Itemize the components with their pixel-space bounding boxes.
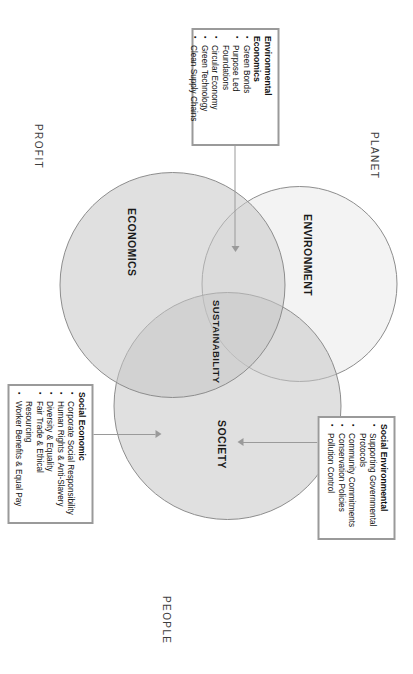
callout-title-social-economic: Social Economic bbox=[75, 392, 86, 516]
callout-item: Purpose Led Foundations bbox=[218, 36, 239, 138]
outer-word-profit: PROFIT bbox=[32, 124, 43, 169]
callout-item: Conservation Policies bbox=[334, 424, 345, 532]
connector-line-environmental-economics bbox=[234, 146, 235, 248]
callout-item: Green Bonds bbox=[239, 36, 250, 138]
callout-title-environmental-economics: Environmental Economics bbox=[251, 36, 272, 138]
callout-item: Supporting Governmental Protocols bbox=[355, 424, 376, 532]
callout-item: Diversity & Equality bbox=[43, 392, 54, 516]
venn-label-environment: ENVIRONMENT bbox=[301, 214, 313, 296]
callout-list-social-environmental: Supporting Governmental Protocols Commun… bbox=[324, 424, 377, 532]
callout-list-environmental-economics: Green Bonds Purpose Led Foundations Circ… bbox=[187, 36, 250, 138]
callout-item: Circular Economy bbox=[208, 36, 219, 138]
callout-item: Worker Benefits & Equal Pay bbox=[11, 392, 22, 516]
callout-box-environmental-economics[interactable]: Environmental Economics Green Bonds Purp… bbox=[191, 28, 279, 146]
callout-item: Green Technology bbox=[197, 36, 208, 138]
arrowhead-up-icon bbox=[155, 430, 161, 438]
connector-line-social-economic bbox=[91, 434, 155, 435]
venn-label-society: SOCIETY bbox=[215, 420, 227, 469]
callout-box-social-economic[interactable]: Social Economic Corporate Social Respons… bbox=[7, 384, 93, 524]
callout-item: Corporate Social Responsibility bbox=[64, 392, 75, 516]
arrowhead-down-icon bbox=[237, 438, 243, 446]
venn-diagram: ENVIRONMENT SOCIETY ECONOMICS SUSTAINABI… bbox=[0, 0, 413, 674]
venn-circle-economics bbox=[59, 172, 285, 398]
venn-label-economics: ECONOMICS bbox=[125, 208, 137, 276]
callout-item: Pollution Control bbox=[324, 424, 335, 532]
callout-box-social-environmental[interactable]: Social Environmental Supporting Governme… bbox=[317, 416, 395, 540]
callout-list-social-economic: Corporate Social Responsibility Human Ri… bbox=[11, 392, 74, 516]
callout-item: Human Rights & Anti-Slavery bbox=[53, 392, 64, 516]
callout-item: Clean Supply Chains bbox=[187, 36, 198, 138]
venn-label-sustainability: SUSTAINABILITY bbox=[210, 300, 221, 384]
outer-word-planet: PLANET bbox=[368, 132, 379, 179]
connector-line-social-environmental bbox=[241, 442, 317, 443]
outer-word-people: PEOPLE bbox=[160, 596, 171, 644]
callout-item: Community Commitments bbox=[345, 424, 356, 532]
callout-item: Fair Trade & Ethical Resourcing bbox=[22, 392, 43, 516]
diagram-canvas: ENVIRONMENT SOCIETY ECONOMICS SUSTAINABI… bbox=[0, 0, 413, 674]
callout-title-social-environmental: Social Environmental bbox=[377, 424, 388, 532]
arrowhead-right-icon bbox=[231, 246, 239, 252]
